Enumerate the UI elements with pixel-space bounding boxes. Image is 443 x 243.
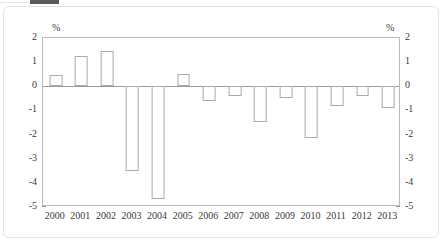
y-tick-label-left-0: 0 [12, 80, 37, 90]
bar-2013 [382, 86, 395, 108]
y-tick-label-right--4: -4 [405, 177, 430, 187]
y-tick-label-right--1: -1 [405, 104, 430, 114]
bar-slot-2006 [196, 38, 222, 205]
bar-series [43, 38, 399, 205]
x-tick-label-2000: 2000 [45, 210, 65, 221]
x-tick-label-2013: 2013 [377, 210, 397, 221]
x-tick-label-2004: 2004 [147, 210, 167, 221]
y-tick-label-right-2: 2 [405, 32, 430, 42]
x-tick-label-2003: 2003 [122, 210, 142, 221]
x-tick-label-2001: 2001 [70, 210, 90, 221]
bar-slot-2003 [120, 38, 146, 205]
bar-2012 [356, 86, 369, 96]
bar-slot-2001 [69, 38, 95, 205]
bar-2000 [49, 75, 62, 86]
y-tick-label-right--5: -5 [405, 201, 430, 211]
y-tick-left--5 [42, 206, 46, 207]
bar-2001 [75, 56, 88, 86]
x-tick-label-2010: 2010 [301, 210, 321, 221]
bar-slot-2002 [94, 38, 120, 205]
x-tick-label-2012: 2012 [352, 210, 372, 221]
x-tick-label-2007: 2007 [224, 210, 244, 221]
figure-card: % % 210-1-2-3-4-5 210-1-2-3-4-5 20002001… [3, 6, 439, 238]
y-tick-right--5 [396, 206, 400, 207]
bar-2007 [228, 86, 241, 96]
bar-2003 [126, 86, 139, 171]
y-tick-label-left--1: -1 [12, 104, 37, 114]
y-tick-label-left--2: -2 [12, 129, 37, 139]
bar-slot-2004 [145, 38, 171, 205]
y-axis-unit-label-left: % [52, 23, 60, 33]
bar-2011 [331, 86, 344, 105]
y-axis-unit-label-right: % [386, 23, 394, 33]
bar-2004 [152, 86, 165, 198]
top-divider-rule [0, 2, 30, 3]
bar-2005 [177, 74, 190, 86]
y-tick-label-left--3: -3 [12, 153, 37, 163]
x-tick-label-2008: 2008 [249, 210, 269, 221]
y-tick-label-right--2: -2 [405, 129, 430, 139]
plot-area [42, 37, 400, 206]
bar-2009 [280, 86, 293, 98]
y-tick-label-right--3: -3 [405, 153, 430, 163]
y-tick-label-right-0: 0 [405, 80, 430, 90]
bar-slot-2010 [299, 38, 325, 205]
bar-2008 [254, 86, 267, 122]
bar-2010 [305, 86, 318, 138]
x-tick-label-2005: 2005 [173, 210, 193, 221]
y-tick-label-right-1: 1 [405, 56, 430, 66]
bar-2002 [101, 51, 114, 86]
bar-slot-2005 [171, 38, 197, 205]
y-tick-label-left--4: -4 [12, 177, 37, 187]
bar-2006 [203, 86, 216, 100]
bar-slot-2008 [248, 38, 274, 205]
bar-slot-2009 [273, 38, 299, 205]
x-tick-label-2011: 2011 [326, 210, 346, 221]
bar-slot-2013 [375, 38, 401, 205]
bar-slot-2007 [222, 38, 248, 205]
x-tick-label-2006: 2006 [198, 210, 218, 221]
y-tick-label-left--5: -5 [12, 201, 37, 211]
bar-slot-2000 [43, 38, 69, 205]
x-tick-label-2009: 2009 [275, 210, 295, 221]
y-tick-label-left-2: 2 [12, 32, 37, 42]
cropped-toolbar-artifact [30, 0, 59, 4]
x-tick-label-2002: 2002 [96, 210, 116, 221]
bar-slot-2012 [350, 38, 376, 205]
y-tick-label-left-1: 1 [12, 56, 37, 66]
bar-slot-2011 [324, 38, 350, 205]
